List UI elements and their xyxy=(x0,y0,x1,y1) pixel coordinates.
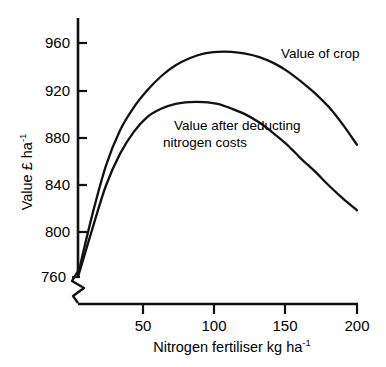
x-tick-label-50: 50 xyxy=(135,317,152,334)
y-tick-label-840: 840 xyxy=(45,176,70,193)
x-axis-title-text: Nitrogen fertiliser kg ha xyxy=(153,339,303,355)
y-tick-label-800: 800 xyxy=(45,223,70,240)
x-tick-label-150: 150 xyxy=(272,317,297,334)
y-axis-title-superscript: -1 xyxy=(17,134,28,142)
chart-plot-area: 960 920 880 840 800 760 50 100 150 200 N… xyxy=(0,0,386,367)
x-axis-title-superscript: -1 xyxy=(302,337,310,348)
curve-value-of-crop xyxy=(78,52,357,275)
y-tick-label-760: 760 xyxy=(41,268,66,285)
y-tick-label-880: 880 xyxy=(45,129,70,146)
y-tick-label-960: 960 xyxy=(45,34,70,51)
curve-label-net-line2: nitrogen costs xyxy=(163,135,247,150)
curve-label-value-of-crop: Value of crop xyxy=(281,46,360,61)
x-axis-tick-labels: 50 100 150 200 xyxy=(135,317,370,334)
x-axis-title: Nitrogen fertiliser kg ha-1 xyxy=(153,337,311,355)
y-axis-title-text: Value £ ha xyxy=(19,141,35,210)
curve-label-net-line1: Value after deducting xyxy=(174,118,301,133)
y-tick-label-920: 920 xyxy=(45,82,70,99)
x-axis-ticks xyxy=(143,304,357,314)
x-tick-label-100: 100 xyxy=(201,317,226,334)
data-curves xyxy=(78,52,357,277)
y-axis-title: Value £ ha-1 xyxy=(17,134,35,211)
chart-figure: 960 920 880 840 800 760 50 100 150 200 N… xyxy=(0,0,386,367)
x-tick-label-200: 200 xyxy=(344,317,369,334)
y-axis-tick-labels: 960 920 880 840 800 760 xyxy=(41,34,70,285)
